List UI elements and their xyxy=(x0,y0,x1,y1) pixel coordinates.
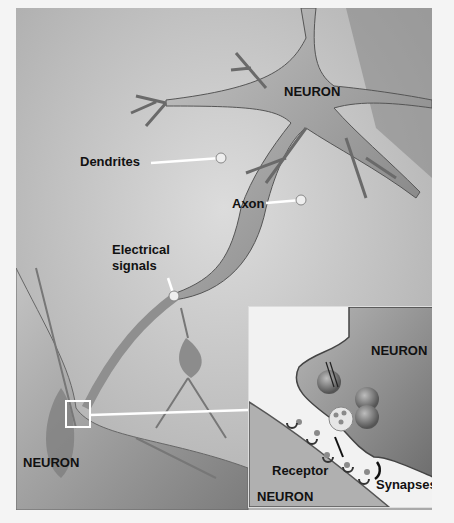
inset-label-synapses: Synapses xyxy=(376,477,432,492)
inset-label-neuron-top: NEURON xyxy=(371,343,427,358)
label-dendrites: Dendrites xyxy=(80,154,140,169)
neuron-illustration: NEURON Dendrites Axon Electrical signals… xyxy=(16,8,432,510)
label-neuron-top: NEURON xyxy=(284,84,340,99)
label-neuron-bottom-left: NEURON xyxy=(23,455,79,470)
label-electrical-signals-line1: Electrical xyxy=(112,242,170,257)
synapse-inset: NEURON Receptor Synapses NEURON xyxy=(248,306,432,508)
label-electrical-signals-line2: signals xyxy=(112,258,157,273)
inset-label-neuron-bottom: NEURON xyxy=(257,489,313,504)
label-axon: Axon xyxy=(232,196,265,211)
inset-label-receptor: Receptor xyxy=(272,463,328,478)
